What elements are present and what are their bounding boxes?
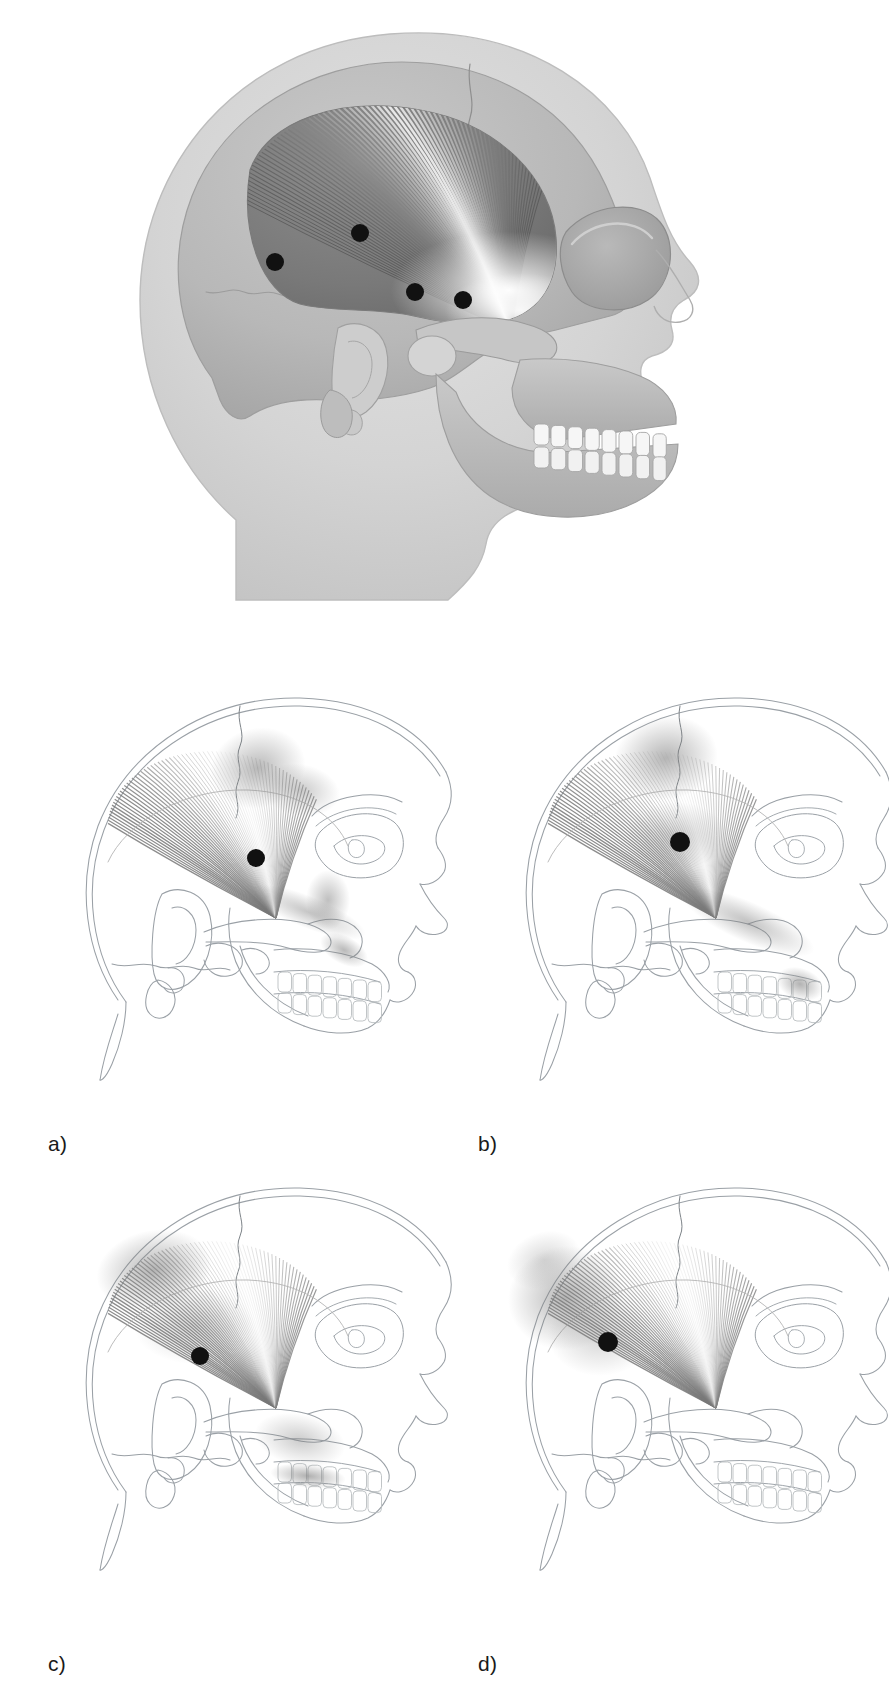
skull-outline	[348, 840, 364, 858]
tooth-lower	[338, 1489, 352, 1509]
skull-outline	[752, 795, 842, 816]
skull-outline	[838, 1416, 856, 1462]
tooth-upper	[551, 425, 566, 446]
panel-c-illustration	[8, 1140, 448, 1570]
skull-outline	[755, 814, 843, 878]
tooth-lower	[323, 1488, 337, 1508]
tooth-lower	[338, 999, 352, 1019]
tooth-upper	[718, 1462, 732, 1482]
panel-label-c: c)	[48, 1652, 66, 1676]
tooth-lower	[619, 454, 633, 477]
tooth-lower	[534, 447, 549, 468]
skull-outline	[788, 840, 804, 858]
referred-pain-region	[269, 1460, 347, 1492]
tooth-lower	[308, 996, 322, 1016]
skull-outline	[540, 1002, 566, 1080]
tooth-upper	[585, 428, 599, 450]
panel-d	[448, 1140, 888, 1570]
skull-outline	[398, 926, 416, 972]
skull-outline	[540, 1492, 566, 1570]
tooth-upper	[278, 972, 292, 992]
skull-outline	[788, 1330, 804, 1348]
skull-outline	[100, 1492, 126, 1570]
tooth-lower	[778, 1489, 792, 1509]
trigger-point-marker	[670, 832, 690, 852]
skull-outline	[838, 926, 856, 972]
tooth-lower	[323, 998, 337, 1018]
skull-outline	[152, 1380, 212, 1480]
skull-outline	[416, 1374, 447, 1425]
tooth-upper	[733, 1464, 747, 1484]
skull-outline	[876, 772, 889, 848]
tooth-upper	[353, 980, 367, 1000]
trigger-point-marker	[191, 1347, 209, 1365]
skull-outline	[552, 1454, 670, 1460]
skull-outline	[612, 1397, 636, 1454]
tooth-lower	[278, 993, 292, 1013]
tooth-lower	[308, 1486, 322, 1506]
tooth-lower	[748, 996, 762, 1016]
panel-label-a: a)	[48, 1132, 67, 1156]
skull-outline	[348, 1330, 364, 1348]
tooth-lower	[551, 448, 566, 469]
skull-outline	[860, 848, 886, 885]
tooth-lower	[718, 1483, 732, 1503]
panel-label-d: d)	[478, 1652, 497, 1676]
tooth-lower	[763, 1488, 777, 1508]
anatomy-figure: a) b) c) d) Temporalis muscle trigger po…	[0, 0, 889, 1698]
panel-b	[448, 650, 888, 1080]
main-skull-illustration	[0, 0, 889, 620]
skull-outline	[714, 1482, 820, 1494]
skull-outline	[612, 907, 636, 964]
tooth-lower	[733, 1485, 747, 1505]
skull-outline	[334, 1326, 385, 1354]
tooth-lower	[602, 453, 616, 476]
skull-outline	[644, 1409, 771, 1442]
tooth-lower	[733, 995, 747, 1015]
skull-outline	[334, 836, 385, 864]
skull-outline	[100, 1002, 126, 1080]
tooth-upper	[636, 432, 650, 455]
tooth-lower	[718, 993, 732, 1013]
tooth-lower	[353, 1491, 367, 1511]
tooth-upper	[793, 1470, 807, 1490]
tooth-lower	[585, 451, 599, 473]
skull-outline	[172, 907, 196, 964]
skull-outline	[856, 1374, 887, 1425]
tooth-lower	[748, 1486, 762, 1506]
tooth-upper	[653, 434, 666, 458]
skull-outline	[112, 964, 230, 970]
panel-a-illustration	[8, 650, 448, 1080]
tooth-lower	[568, 450, 583, 472]
tooth-lower	[278, 1483, 292, 1503]
panel-c	[8, 1140, 448, 1570]
skull-outline	[552, 964, 670, 970]
referred-pain-region	[772, 961, 828, 1007]
panel-b-illustration	[448, 650, 888, 1080]
skull-outline	[152, 890, 212, 990]
main-overview-panel	[0, 0, 889, 620]
tooth-lower	[353, 1001, 367, 1021]
skull-outline	[315, 814, 403, 878]
tooth-upper	[602, 430, 616, 453]
trigger-point-marker	[266, 253, 284, 271]
skull-outline	[876, 1262, 889, 1338]
skull-outline	[390, 972, 415, 1002]
tooth-lower	[653, 457, 666, 481]
trigger-point-marker	[454, 291, 472, 309]
skull-outline	[172, 1397, 196, 1454]
referred-pain-region	[674, 874, 822, 969]
panel-d-illustration	[448, 1140, 888, 1570]
trigger-point-marker	[598, 1332, 618, 1352]
skull-outline	[774, 1326, 825, 1354]
skull-outline	[398, 1416, 416, 1462]
skull-outline	[416, 884, 447, 935]
tooth-lower	[793, 1001, 807, 1021]
tooth-upper	[733, 974, 747, 994]
skull-outline	[390, 1462, 415, 1492]
tooth-lower	[793, 1491, 807, 1511]
panel-a	[8, 650, 448, 1080]
skull-outline	[420, 1338, 446, 1375]
skull-outline	[856, 884, 887, 935]
skull-outline	[312, 1285, 402, 1306]
